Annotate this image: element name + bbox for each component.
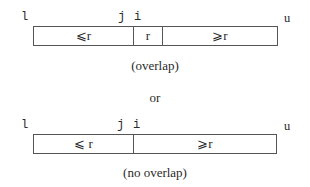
cell-greater-equal-r: ⩾r bbox=[162, 27, 277, 45]
label-lower-bound: l bbox=[21, 119, 28, 131]
cell-label: ⩽r bbox=[76, 28, 91, 44]
cell-greater-equal-r: ⩾r bbox=[133, 135, 276, 153]
label-i: i bbox=[134, 11, 141, 23]
no-overlap-array-box: ⩽ r ⩾r bbox=[33, 134, 277, 154]
or-separator: or bbox=[0, 91, 310, 104]
no-overlap-caption: (no overlap) bbox=[0, 166, 310, 179]
cell-label: ⩾r bbox=[212, 28, 227, 44]
cell-less-equal-r: ⩽ r bbox=[34, 135, 133, 153]
label-j: j bbox=[117, 119, 124, 131]
label-lower-bound: l bbox=[21, 11, 28, 23]
cell-equal-r: r bbox=[133, 27, 162, 45]
overlap-array-box: ⩽r r ⩾r bbox=[33, 26, 278, 46]
label-upper-bound: u bbox=[284, 12, 290, 25]
cell-label: ⩾r bbox=[197, 136, 212, 152]
label-j: j bbox=[118, 11, 125, 23]
cell-label: r bbox=[146, 28, 150, 44]
cell-label: ⩽ r bbox=[74, 136, 93, 152]
cell-less-equal-r: ⩽r bbox=[34, 27, 133, 45]
label-i: i bbox=[133, 119, 140, 131]
overlap-caption: (overlap) bbox=[0, 59, 310, 72]
label-upper-bound: u bbox=[284, 120, 290, 133]
